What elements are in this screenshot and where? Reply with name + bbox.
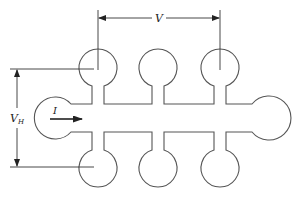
vh-label-subscript: H — [17, 118, 25, 126]
vh-label: VH — [10, 112, 25, 126]
diagram-canvas: V VH I — [0, 0, 303, 198]
v-label: V — [155, 12, 164, 25]
hall-bar-diagram: V VH I — [0, 0, 303, 198]
hall-bar-outline — [34, 49, 291, 187]
current-label: I — [52, 105, 58, 116]
